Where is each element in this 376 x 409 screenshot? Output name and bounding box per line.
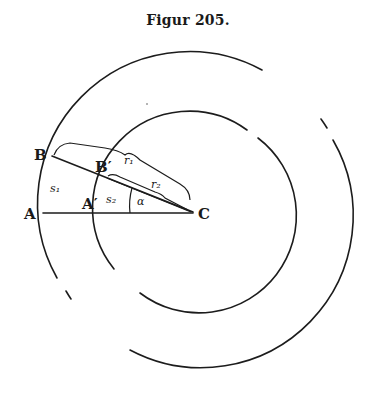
label-s2: s₂ <box>106 193 116 206</box>
label-B: B <box>34 146 47 164</box>
label-A: A <box>23 205 36 223</box>
label-A-prime: A′ <box>81 195 98 213</box>
label-s1: s₁ <box>50 182 60 195</box>
label-alpha: α <box>137 195 145 208</box>
brace-r1 <box>54 143 190 200</box>
outer-arc-upper-left <box>38 52 262 278</box>
stray-dot <box>146 103 148 105</box>
outer-arc-dash-left <box>66 291 71 299</box>
label-B-prime: B′ <box>95 158 112 176</box>
inner-circle <box>93 111 297 313</box>
angle-alpha-arc <box>130 188 132 213</box>
inner-arc-upper-left <box>93 111 247 269</box>
outer-arc-dash-right <box>321 119 327 128</box>
label-r1: r₁ <box>124 154 134 167</box>
concentric-circles-diagram: A A′ B B′ C s₁ s₂ r₁ r₂ α <box>0 0 376 409</box>
label-r2: r₂ <box>151 178 161 191</box>
inner-arc-right-bottom <box>140 138 296 313</box>
label-C: C <box>198 205 210 223</box>
